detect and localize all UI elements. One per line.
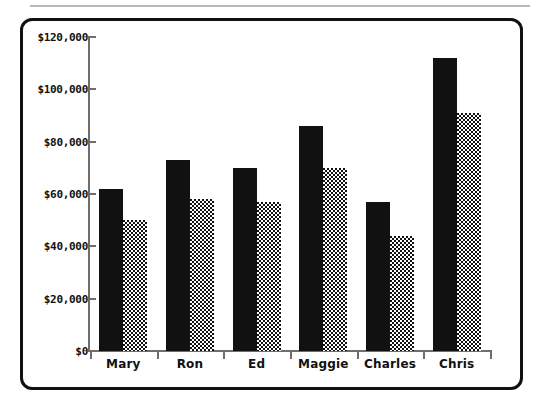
bar-ed-series-1 (233, 168, 257, 351)
top-divider-rule (30, 5, 530, 7)
x-axis-tick (223, 350, 225, 359)
y-axis-tick-label: $40,000 (10, 240, 88, 253)
y-axis-tick-label: $80,000 (10, 135, 88, 148)
y-axis-tick-label: $0 (10, 345, 88, 358)
x-axis-category-label: Charles (364, 357, 416, 371)
plot-area (90, 37, 490, 351)
bar-maggie-series-2 (323, 168, 347, 351)
x-axis-category-label: Mary (106, 357, 141, 371)
bar-ron-series-2 (190, 199, 214, 351)
x-axis-tick (90, 350, 92, 359)
x-axis-category-label: Ed (248, 357, 265, 371)
x-axis-tick (290, 350, 292, 359)
x-axis-tick (490, 350, 492, 359)
bar-mary-series-2 (123, 220, 147, 351)
x-axis-category-label: Chris (439, 357, 475, 371)
y-axis-labels: $0$20,000$40,000$60,000$80,000$100,000$1… (2, 0, 88, 408)
x-axis-category-label: Ron (177, 357, 204, 371)
bar-ed-series-2 (257, 202, 281, 351)
bar-maggie-series-1 (299, 126, 323, 351)
x-axis-tick (423, 350, 425, 359)
y-axis-tick-label: $60,000 (10, 188, 88, 201)
bar-mary-series-1 (99, 189, 123, 351)
y-axis-tick-label: $120,000 (10, 31, 88, 44)
bar-charles-series-1 (366, 202, 390, 351)
bar-charles-series-2 (390, 236, 414, 351)
x-axis-tick (357, 350, 359, 359)
x-axis-category-label: Maggie (298, 357, 349, 371)
bar-chris-series-1 (433, 58, 457, 351)
y-axis-tick-label: $20,000 (10, 292, 88, 305)
bar-ron-series-1 (166, 160, 190, 351)
bar-chris-series-2 (457, 113, 481, 351)
y-axis-tick-label: $100,000 (10, 83, 88, 96)
chart-page: $0$20,000$40,000$60,000$80,000$100,000$1… (0, 0, 542, 408)
x-axis-tick (157, 350, 159, 359)
